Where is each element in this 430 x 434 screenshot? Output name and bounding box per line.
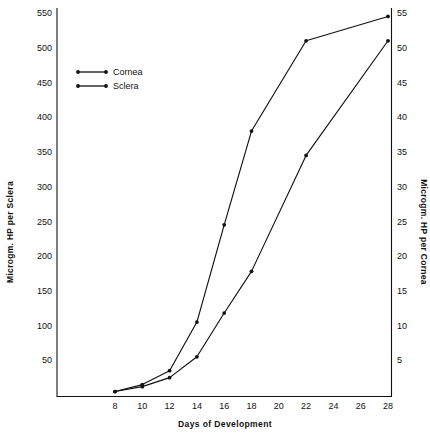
data-point-sclera [304, 153, 308, 157]
data-point-sclera [113, 390, 117, 394]
y-axis-right-tick: 20 [397, 251, 407, 261]
series-layer [113, 15, 390, 394]
y-axis-right-title: Microgm. HP per Cornea [419, 179, 429, 285]
legend-marker-end [104, 84, 108, 88]
data-point-sclera [222, 311, 226, 315]
x-axis-tick: 22 [301, 401, 311, 411]
y-axis-left-title: Microgm. HP per Sclera [5, 181, 15, 283]
y-axis-left-tick: 350 [37, 147, 52, 157]
x-axis-tick: 8 [112, 401, 117, 411]
y-axis-left-tick: 200 [37, 251, 52, 261]
y-axis-left-tick: 250 [37, 217, 52, 227]
x-axis-tick: 14 [192, 401, 202, 411]
y-axis-left-tick: 50 [42, 355, 52, 365]
x-axis-tick: 28 [383, 401, 393, 411]
y-axis-right-tick: 15 [397, 286, 407, 296]
y-axis-right-tick: 25 [397, 217, 407, 227]
legend-marker-end [104, 70, 108, 74]
x-axis-tick: 10 [137, 401, 147, 411]
y-axis-left-tick: 500 [37, 43, 52, 53]
data-point-sclera [195, 355, 199, 359]
x-axis-tick: 20 [274, 401, 284, 411]
series-line-sclera [115, 41, 388, 392]
data-point-sclera [168, 376, 172, 380]
series-line-cornea [115, 16, 388, 391]
y-axis-left-tick: 100 [37, 321, 52, 331]
data-point-cornea [168, 369, 172, 373]
y-axis-right-tick: 40 [397, 112, 407, 122]
x-axis-tick-labels: 810121416182022242628 [112, 401, 393, 411]
data-point-cornea [304, 39, 308, 43]
y-axis-right-tick: 55 [397, 8, 407, 18]
chart-legend: CorneaSclera [76, 67, 142, 91]
y-axis-left-tick-labels: 50100150200250300350400450500550 [37, 8, 52, 365]
x-axis-title: Days of Development [178, 419, 272, 429]
y-axis-left-tick: 550 [37, 8, 52, 18]
data-point-cornea [222, 223, 226, 227]
x-axis-tick: 12 [165, 401, 175, 411]
chart-figure: 50100150200250300350400450500550 5101520… [0, 0, 430, 434]
data-point-cornea [250, 129, 254, 133]
legend-label-sclera: Sclera [113, 81, 139, 91]
y-axis-left-tick: 150 [37, 286, 52, 296]
x-axis-tick: 26 [356, 401, 366, 411]
y-axis-right-tick: 35 [397, 147, 407, 157]
y-axis-left-tick: 300 [37, 182, 52, 192]
y-axis-right-tick: 5 [397, 355, 402, 365]
y-axis-right-tick: 30 [397, 182, 407, 192]
y-axis-left-tick: 400 [37, 112, 52, 122]
data-point-cornea [386, 15, 390, 19]
data-point-sclera [386, 39, 390, 43]
data-point-sclera [250, 269, 254, 273]
x-axis-tick: 24 [328, 401, 338, 411]
x-axis-tick: 16 [219, 401, 229, 411]
data-point-cornea [195, 320, 199, 324]
legend-marker-start [76, 84, 80, 88]
y-axis-right-tick: 10 [397, 321, 407, 331]
x-axis-tick: 18 [246, 401, 256, 411]
y-axis-left-tick: 450 [37, 78, 52, 88]
data-point-sclera [140, 385, 144, 389]
y-axis-right-tick-labels: 510152025303540455055 [397, 8, 407, 365]
legend-label-cornea: Cornea [113, 67, 143, 77]
y-axis-right-tick: 50 [397, 43, 407, 53]
y-axis-right-tick: 45 [397, 78, 407, 88]
legend-marker-start [76, 70, 80, 74]
chart-svg: 50100150200250300350400450500550 5101520… [0, 0, 430, 434]
